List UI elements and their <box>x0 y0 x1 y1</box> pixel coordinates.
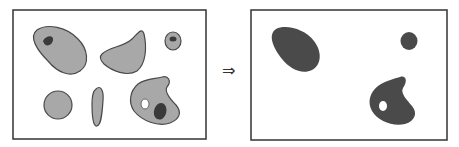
transform-arrow-icon: ⇒ <box>222 61 235 81</box>
blob-shape <box>44 91 72 119</box>
output-panel <box>250 9 449 142</box>
input-panel <box>12 9 208 141</box>
blob-with-dark-hole <box>165 32 181 50</box>
output-blob-small <box>401 32 418 50</box>
